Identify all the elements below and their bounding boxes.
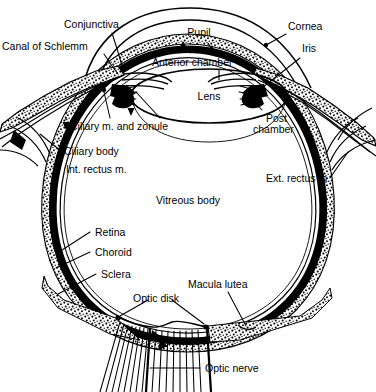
label-pupil: Pupil	[187, 26, 210, 38]
leader-cornea	[268, 34, 286, 44]
label-macula-lutea: Macula lutea	[188, 278, 248, 290]
dot-ciliary-body	[102, 88, 106, 92]
arrowhead-ciliary-m	[128, 108, 135, 116]
eye-anatomy-diagram: Conjunctiva Canal of Schlemm Pupil Anter…	[0, 0, 376, 392]
label-conjunctiva: Conjunctiva	[64, 18, 119, 30]
optic-nerve-head	[42, 276, 332, 392]
label-ciliary-body: Ciliary body	[64, 145, 120, 157]
eye-cross-section-svg: Conjunctiva Canal of Schlemm Pupil Anter…	[0, 0, 376, 392]
label-int-rectus-m: Int. rectus m.	[66, 163, 127, 175]
label-choroid: Choroid	[95, 246, 132, 258]
label-post-chamber-line2: chamber	[253, 123, 294, 135]
label-retina: Retina	[95, 226, 126, 238]
label-vitreous-body: Vitreous body	[156, 194, 221, 206]
leader-zonule	[136, 92, 160, 118]
dot-iris	[259, 87, 264, 92]
dot-cornea	[264, 43, 268, 47]
label-canal-of-schlemm: Canal of Schlemm	[2, 40, 88, 52]
zonule-fibers	[122, 86, 254, 105]
vitreous-anterior-boundary	[131, 96, 287, 142]
label-ciliary-m-and-zonule: Ciliary m. and zonule	[70, 120, 168, 132]
label-anterior-chamber: Anterior chamber	[152, 56, 233, 68]
label-iris: Iris	[302, 42, 316, 54]
label-cornea: Cornea	[288, 20, 323, 32]
label-optic-disk: Optic disk	[133, 292, 180, 304]
label-ext-rectus-m: Ext. rectus m.	[266, 172, 330, 184]
label-sclera: Sclera	[101, 268, 131, 280]
label-optic-nerve: Optic nerve	[205, 362, 259, 374]
label-lens: Lens	[198, 90, 221, 102]
